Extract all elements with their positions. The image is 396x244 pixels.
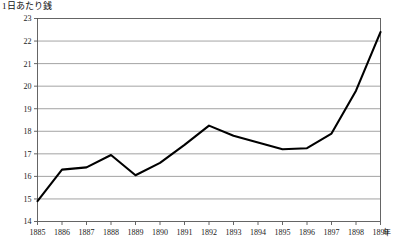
x-tick-label: 1895 xyxy=(275,228,291,237)
chart-container: 1日あたり銭 14151617181920212223 188518861887… xyxy=(0,0,396,244)
line-chart-plot: 14151617181920212223 1885188618871888188… xyxy=(0,0,396,244)
y-tick-label: 15 xyxy=(24,195,32,204)
y-tick-labels-group: 14151617181920212223 xyxy=(24,14,32,226)
y-tick-label: 17 xyxy=(24,150,32,159)
x-tick-label: 1885 xyxy=(30,228,46,237)
x-tick-label: 1886 xyxy=(54,228,70,237)
y-tick-label: 18 xyxy=(24,127,32,136)
x-tick-label: 1887 xyxy=(79,228,95,237)
y-tick-label: 19 xyxy=(24,105,32,114)
x-tick-label: 1893 xyxy=(226,228,242,237)
y-tick-label: 20 xyxy=(24,82,32,91)
plot-frame xyxy=(38,19,381,222)
y-tick-label: 22 xyxy=(24,37,32,46)
x-tick-label: 1898 xyxy=(348,228,364,237)
y-tick-label: 21 xyxy=(24,60,32,69)
x-tick-label: 1891 xyxy=(177,228,193,237)
x-tickmarks-group xyxy=(38,222,381,226)
x-tick-label: 1892 xyxy=(201,228,217,237)
x-tick-label: 1888 xyxy=(103,228,119,237)
y-tick-label: 16 xyxy=(24,172,32,181)
x-axis-unit-label: 年 xyxy=(383,227,391,237)
y-tick-label: 23 xyxy=(24,14,32,23)
x-tick-label: 1890 xyxy=(152,228,168,237)
x-tick-label: 1897 xyxy=(324,228,340,237)
x-tick-label: 1894 xyxy=(250,228,266,237)
data-series-group xyxy=(38,32,381,201)
x-tick-label: 1889 xyxy=(128,228,144,237)
y-tick-label: 14 xyxy=(24,217,32,226)
x-tick-labels-group: 1885188618871888188918901891189218931894… xyxy=(30,228,389,237)
data-line-series xyxy=(38,32,381,201)
gridlines-group xyxy=(34,19,381,222)
plot-frame-group xyxy=(38,19,381,222)
x-unit-label-group: 年 xyxy=(383,227,391,237)
x-tick-label: 1896 xyxy=(299,228,315,237)
